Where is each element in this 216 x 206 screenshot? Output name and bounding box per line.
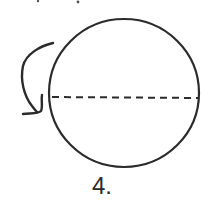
figure-number: 4. xyxy=(92,172,112,199)
figure-label: 4. xyxy=(0,172,216,200)
circle-shape xyxy=(49,19,199,167)
dashed-diameter-line xyxy=(52,97,199,98)
top-edge-marks xyxy=(37,0,80,3)
